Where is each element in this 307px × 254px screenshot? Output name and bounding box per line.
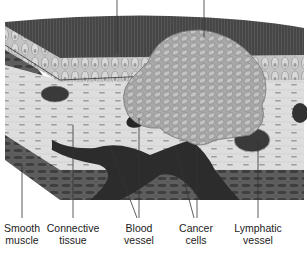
label-smooth-muscle: Smooth muscle (4, 222, 40, 246)
label-line: tissue (47, 234, 100, 246)
label-line: cells (179, 234, 213, 246)
label-cancer-cells: Cancer cells (179, 222, 213, 246)
label-line: Lymphatic (234, 222, 281, 234)
label-lymphatic-vessel: Lymphatic vessel (234, 222, 281, 246)
label-line: Blood (124, 222, 154, 234)
label-blood-vessel: Blood vessel (124, 222, 154, 246)
label-line: Connective (47, 222, 100, 234)
tissue-cross-section-illustration (0, 0, 307, 254)
label-line: Cancer (179, 222, 213, 234)
label-connective-tissue: Connective tissue (47, 222, 100, 246)
label-line: Smooth (4, 222, 40, 234)
label-line: vessel (234, 234, 281, 246)
label-line: muscle (4, 234, 40, 246)
label-line: vessel (124, 234, 154, 246)
